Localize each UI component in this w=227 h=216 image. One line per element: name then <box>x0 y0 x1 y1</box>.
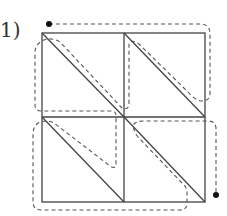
grid-lines <box>42 33 205 202</box>
diagonal-br <box>124 117 205 202</box>
grid-diagram <box>0 0 227 216</box>
end-dot <box>213 192 219 198</box>
diagonal-tr <box>124 33 205 117</box>
start-dot <box>46 21 52 27</box>
diagonal-tl <box>42 33 124 117</box>
diagonal-bl <box>42 117 124 202</box>
